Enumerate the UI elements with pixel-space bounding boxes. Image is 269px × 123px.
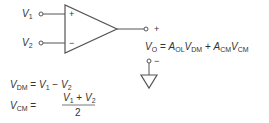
- vcm-numerator: V1 + V2: [63, 93, 96, 104]
- input2-terminal: [39, 41, 43, 45]
- output-terminal: [144, 27, 148, 31]
- vcm-lhs: VCM =: [10, 101, 36, 112]
- opamp-schematic: [0, 0, 269, 123]
- ground-terminal: [147, 59, 151, 63]
- input1-label: V1: [22, 9, 33, 20]
- inverting-pin-label: −: [69, 38, 74, 48]
- noninverting-pin-label: +: [69, 9, 74, 19]
- output-plus-label: +: [154, 24, 159, 34]
- ground-icon: [141, 75, 157, 88]
- vdm-equation: VDM = V1 − V2: [10, 80, 72, 91]
- vo-equation: VO = AOLVDM + ACMVCM: [145, 42, 249, 53]
- input1-terminal: [39, 12, 43, 16]
- vcm-denominator: 2: [75, 108, 81, 118]
- input2-label: V2: [22, 38, 33, 49]
- output-minus-label: −: [154, 56, 159, 66]
